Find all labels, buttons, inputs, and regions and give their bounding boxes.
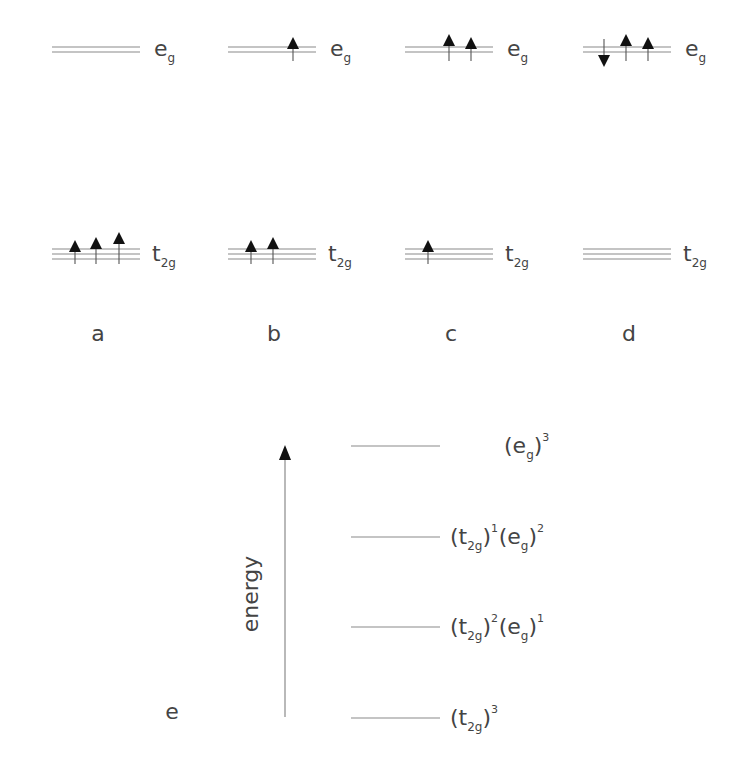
spin-up-arrow-icon	[465, 37, 477, 61]
panel-label: a	[91, 321, 104, 346]
panel-c: egt2gc	[405, 34, 529, 346]
configuration-level: (t2g)2 (eg)1	[351, 612, 544, 643]
spin-up-arrow-icon	[69, 240, 81, 264]
panel-d: egt2gd	[583, 34, 707, 346]
panel-b: egt2gb	[228, 36, 352, 346]
spin-up-arrow-icon	[287, 37, 299, 61]
eg-level: eg	[52, 36, 175, 65]
configuration-label: (t2g)3	[450, 703, 498, 734]
spin-up-arrow-icon	[90, 237, 102, 264]
energy-axis: energy	[238, 445, 291, 717]
configuration-level: (eg)3	[351, 431, 549, 462]
t2g-label: t2g	[505, 241, 529, 270]
t2g-level: t2g	[52, 232, 176, 270]
panel-label: b	[267, 321, 281, 346]
eg-label: eg	[507, 36, 528, 65]
t2g-level: t2g	[228, 237, 352, 270]
spin-up-arrow-icon	[642, 37, 654, 61]
spin-down-arrow-icon	[598, 39, 610, 67]
t2g-level: t2g	[405, 240, 529, 270]
eg-level: eg	[405, 34, 528, 65]
configuration-label: (t2g)2 (eg)1	[450, 612, 544, 643]
energy-axis-label: energy	[238, 556, 263, 633]
spin-up-arrow-icon	[422, 240, 434, 264]
orbital-panels: egt2gaegt2gbegt2gcegt2gd	[52, 34, 707, 346]
configuration-level: (t2g)3	[351, 703, 498, 734]
spin-up-arrow-icon	[267, 237, 279, 264]
spin-up-arrow-icon	[245, 240, 257, 264]
t2g-label: t2g	[683, 241, 707, 270]
configuration-label: (eg)3	[504, 431, 549, 462]
axis-arrow-icon	[279, 445, 291, 460]
t2g-level: t2g	[583, 241, 707, 270]
energy-level-diagram: energye(eg)3 (t2g)1 (eg)2 (t2g)2 (eg)1 (…	[165, 431, 549, 734]
eg-label: eg	[154, 36, 175, 65]
eg-label: eg	[685, 36, 706, 65]
eg-label: eg	[330, 36, 351, 65]
configuration-level: (t2g)1 (eg)2	[351, 522, 544, 553]
t2g-label: t2g	[328, 241, 352, 270]
eg-level: eg	[583, 34, 706, 67]
left-label: e	[165, 699, 179, 724]
panel-label: d	[622, 321, 636, 346]
panel-a: egt2ga	[52, 36, 176, 346]
configuration-label: (t2g)1 (eg)2	[450, 522, 544, 553]
t2g-label: t2g	[152, 241, 176, 270]
eg-level: eg	[228, 36, 351, 65]
panel-label: c	[445, 321, 457, 346]
orbital-diagram: egt2gaegt2gbegt2gcegt2gd energye(eg)3 (t…	[0, 0, 741, 770]
